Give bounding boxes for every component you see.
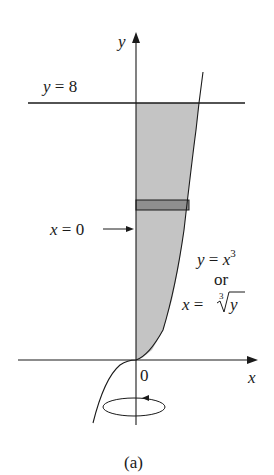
rotation-ellipse	[103, 398, 165, 416]
figure-caption: (a)	[124, 453, 143, 472]
shaded-region	[136, 103, 199, 360]
label-x-equals-0: x = 0	[49, 220, 84, 239]
x-axis-label: x	[247, 368, 256, 387]
label-or: or	[214, 270, 229, 289]
pointer-arrow-icon	[126, 226, 134, 232]
y-axis-label: y	[116, 32, 126, 51]
label-curve-x-equals-cuberoot-y: x =	[181, 295, 208, 314]
y-axis-arrow-icon	[132, 32, 140, 43]
rotation-arrow-icon	[142, 395, 149, 401]
label-curve-y-equals-x-cubed: y = x3	[195, 247, 236, 269]
representative-strip	[136, 200, 189, 210]
label-y-equals-8: y = 8	[41, 77, 77, 96]
x-axis-arrow-icon	[247, 356, 258, 364]
root-index: 3	[219, 291, 224, 301]
origin-label: 0	[140, 366, 149, 385]
solid-of-revolution-diagram: y y = 8 x = 0 y = x3 or x = 3 y 0 x (a)	[0, 0, 274, 475]
radicand: y	[228, 295, 238, 314]
